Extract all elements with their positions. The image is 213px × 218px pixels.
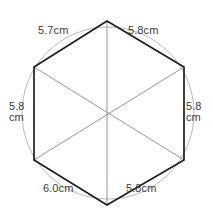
side-label-left: 5.8 cm [9, 101, 25, 123]
side-label-bottom-right: 5.8cm [126, 183, 156, 194]
side-label-right: 5.8 cm [186, 101, 202, 123]
side-label-top-right: 5.8cm [128, 25, 158, 36]
side-label-right-unit: cm [186, 112, 202, 123]
side-label-bottom-left: 6.0cm [43, 183, 73, 194]
side-label-top-left: 5.7cm [38, 25, 68, 36]
side-label-left-unit: cm [9, 112, 25, 123]
hexagon-diagonals [34, 21, 184, 205]
hexagon-diagram [0, 0, 213, 218]
